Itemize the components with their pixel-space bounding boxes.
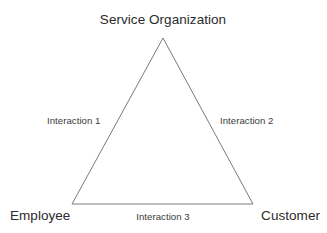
- edge-label-interaction-1: Interaction 1: [47, 116, 100, 126]
- service-triangle-diagram: Service Organization Employee Customer I…: [0, 0, 327, 233]
- node-label-employee: Employee: [10, 209, 70, 223]
- edge-label-interaction-2: Interaction 2: [220, 116, 273, 126]
- node-label-customer: Customer: [261, 209, 320, 223]
- edge-label-interaction-3: Interaction 3: [136, 212, 189, 222]
- node-label-service-organization: Service Organization: [100, 13, 226, 27]
